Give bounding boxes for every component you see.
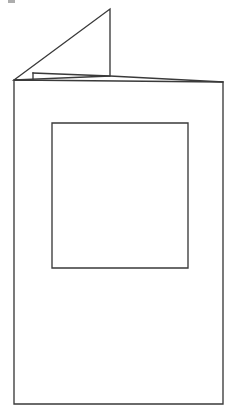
folded-card-drawing: Folded greeting card with square apertur… [0,0,235,411]
scan-speck-artifact [8,0,15,3]
aperture-window-fill [52,123,188,268]
illustration-root: Folded greeting card with square apertur… [0,0,235,411]
open-flap-triangle [14,9,110,80]
